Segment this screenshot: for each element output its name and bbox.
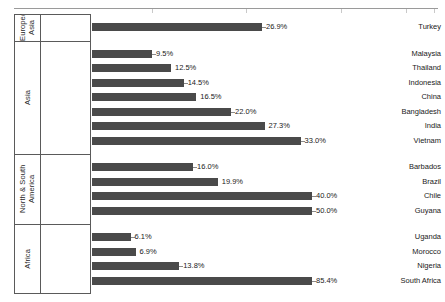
bar	[92, 248, 136, 256]
category-group: North & South America	[14, 154, 91, 224]
group-label-divider	[40, 41, 41, 155]
bar-value-label: 26.9%	[266, 22, 287, 32]
category-label: Barbados	[409, 162, 441, 172]
group-label-divider	[40, 154, 41, 224]
bar	[92, 233, 131, 241]
group-label: Europe/ Asia	[14, 14, 40, 41]
bar	[92, 262, 179, 270]
bar	[92, 277, 312, 285]
bar-value-label: 14.5%	[188, 78, 209, 88]
bar	[92, 50, 152, 58]
category-label: Malaysia	[411, 49, 441, 59]
category-label: Uganda	[415, 232, 441, 242]
group-label: Asia	[14, 41, 40, 155]
top-axis-rule	[14, 8, 438, 9]
bar-value-label: 50.0%	[316, 206, 337, 216]
bar-value-label: 12.5%	[175, 63, 196, 73]
category-label: Thailand	[412, 63, 441, 73]
bar-value-label: 85.4%	[316, 276, 337, 286]
horizontal-bar-chart: Turkey26.9%Malaysia9.5%Thailand12.5%Indo…	[0, 0, 445, 302]
axis-tick	[246, 9, 247, 13]
bar-value-label: 13.8%	[183, 261, 204, 271]
bar	[92, 178, 218, 186]
category-label: Turkey	[418, 22, 441, 32]
group-label: North & South America	[14, 154, 40, 224]
group-label-divider	[40, 14, 41, 41]
axis-tick	[434, 9, 435, 13]
group-label-text: Asia	[23, 90, 32, 105]
bar-value-label: 16.5%	[200, 92, 221, 102]
bar-value-label: 27.3%	[269, 121, 290, 131]
bar	[92, 79, 184, 87]
bar	[92, 23, 262, 31]
category-label: Indonesia	[408, 78, 441, 88]
category-label: Bangladesh	[401, 107, 441, 117]
bar-value-label: 16.0%	[197, 162, 218, 172]
category-label: Vietnam	[414, 136, 441, 146]
bar-value-label: 40.0%	[316, 191, 337, 201]
category-group: Asia	[14, 41, 91, 155]
category-label: India	[425, 121, 441, 131]
bar	[92, 122, 265, 130]
bar	[92, 93, 196, 101]
category-label: China	[421, 92, 441, 102]
bar-value-label: 33.0%	[305, 136, 326, 146]
bar-value-label: 9.5%	[156, 49, 173, 59]
category-label: Morocco	[412, 247, 441, 257]
bar	[92, 64, 171, 72]
category-label: Nigeria	[417, 261, 441, 271]
category-label: South Africa	[401, 276, 441, 286]
bar	[92, 108, 231, 116]
bar-value-label: 6.9%	[140, 247, 157, 257]
axis-tick	[341, 9, 342, 13]
bar-value-label: 19.9%	[222, 177, 243, 187]
group-label: Africa	[14, 224, 40, 294]
group-label-divider	[40, 224, 41, 294]
bar	[92, 163, 193, 171]
axis-tick	[406, 9, 407, 13]
bar-value-label: 22.0%	[235, 107, 256, 117]
bar	[92, 207, 312, 215]
category-label: Brazil	[422, 177, 441, 187]
bar	[92, 137, 301, 145]
bar-value-label: 6.1%	[135, 232, 152, 242]
category-label: Guyana	[415, 206, 441, 216]
axis-tick	[152, 9, 153, 13]
bar	[92, 192, 312, 200]
group-label-text: Europe/ Asia	[18, 14, 36, 41]
group-label-text: North & South America	[18, 154, 36, 224]
category-label: Chile	[424, 191, 441, 201]
group-label-text: Africa	[23, 249, 32, 269]
category-group: Africa	[14, 224, 91, 294]
category-group: Europe/ Asia	[14, 14, 91, 41]
